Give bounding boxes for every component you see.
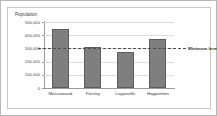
bar [84,47,101,88]
y-tick-mark [42,88,44,89]
y-tick-label: 300,000 [12,46,40,51]
x-axis-line [44,88,175,89]
minimum-level-label: Minimum level [188,46,217,51]
y-axis-title: Population [15,12,37,17]
bar [117,52,134,88]
plot-area [44,22,174,88]
bar [149,39,166,89]
x-axis-label: Paisley [86,91,100,96]
x-axis-label: Happerfont [147,91,169,96]
bar [52,29,69,88]
minimum-level-line [38,48,186,49]
y-tick-label: 400,000 [12,33,40,38]
chart-page: Population 500,000400,000300,000200,0001… [0,0,217,116]
y-tick-label: 200,000 [12,59,40,64]
x-axis-label: Loganville [115,91,135,96]
y-tick-label: 100,000 [12,72,40,77]
y-tick-label: 500,000 [12,20,40,25]
chart-panel: Population 500,000400,000300,000200,0001… [7,7,211,109]
y-tick-label: 0 [12,86,40,91]
x-axis-label: Mansewood [48,91,72,96]
